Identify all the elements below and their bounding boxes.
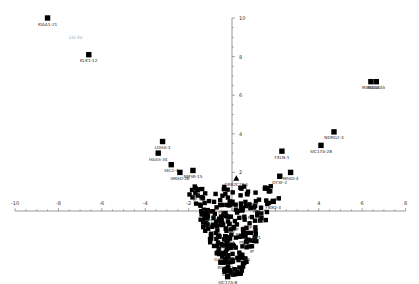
svg-text:F1: F1 xyxy=(244,256,249,261)
x-tick-label: -8 xyxy=(56,200,61,206)
svg-text:F1: F1 xyxy=(242,225,247,230)
svg-text:IP1: IP1 xyxy=(219,245,226,250)
svg-text:PT: PT xyxy=(248,215,254,220)
data-point: HAAS-34 xyxy=(149,150,168,161)
point-label: SEL1-4 xyxy=(164,168,179,173)
point-label: KLK1-12 xyxy=(80,58,98,63)
annotation: Lin Fo xyxy=(69,35,82,40)
svg-text:IP: IP xyxy=(250,249,254,254)
point-label: DYSF-2 xyxy=(272,180,287,185)
point-label: NMSR-15 xyxy=(183,174,202,179)
svg-text:P1: P1 xyxy=(251,202,257,207)
svg-text:P2: P2 xyxy=(229,230,235,235)
data-point: NDRG2-3 xyxy=(324,129,344,140)
x-tick-label: -4 xyxy=(143,200,148,206)
svg-text:IP1: IP1 xyxy=(257,219,264,224)
data-point: GRB2C2P-1 xyxy=(224,175,248,187)
x-tick-label: 6 xyxy=(361,200,364,206)
x-tick-label: -2 xyxy=(186,200,191,206)
data-point: LDHA-3 xyxy=(155,139,171,150)
point-label: LDHA-3 xyxy=(155,145,171,150)
svg-text:F1: F1 xyxy=(238,258,243,263)
y-tick-label: 10 xyxy=(239,15,245,21)
svg-text:IP1: IP1 xyxy=(249,225,256,230)
svg-text:P1: P1 xyxy=(238,251,244,256)
y-tick-label: 4 xyxy=(239,131,242,137)
point-label: MAGEA5 xyxy=(367,85,385,90)
svg-text:PT: PT xyxy=(205,224,211,229)
svg-text:IP: IP xyxy=(216,236,220,241)
volcano-plot: -10-8-6-4-2468246810 IP1P1P2PTIPF1IP1P1P… xyxy=(0,0,419,284)
svg-text:F1: F1 xyxy=(224,212,229,217)
svg-text:F1: F1 xyxy=(230,240,235,245)
svg-text:PT: PT xyxy=(202,208,208,213)
svg-text:P2: P2 xyxy=(223,237,229,242)
svg-text:PT: PT xyxy=(253,209,259,214)
point-label: GRB2C2P-1 xyxy=(224,182,248,187)
point-label: PNLIP xyxy=(239,240,251,245)
svg-text:IP: IP xyxy=(235,227,239,232)
point-label: NDRG2-3 xyxy=(324,135,344,140)
y-tick-label: 8 xyxy=(239,54,242,60)
point-label: HAAS-34 xyxy=(149,157,168,162)
y-tick-label: 2 xyxy=(239,169,242,175)
data-point: KLK1-12 xyxy=(80,52,98,63)
data-point: FXLN-1 xyxy=(274,148,289,159)
data-point: SIC17A-28 xyxy=(310,143,332,154)
point-label: SEB-2 xyxy=(191,193,204,198)
x-tick-label: 4 xyxy=(317,200,320,206)
data-point: SEL1-4 xyxy=(164,162,179,173)
axes: -10-8-6-4-2468246810 xyxy=(11,15,407,211)
point-label: SIC17A-28 xyxy=(310,149,332,154)
svg-text:IP: IP xyxy=(211,214,215,219)
data-point: NMSR-15 xyxy=(183,168,202,179)
x-tick-label: -10 xyxy=(11,200,19,206)
x-tick-label: 8 xyxy=(404,200,407,206)
point-label: FXLN-1 xyxy=(274,155,289,160)
svg-text:IP1: IP1 xyxy=(254,235,261,240)
svg-text:IP1: IP1 xyxy=(202,219,209,224)
x-tick-label: -6 xyxy=(99,200,104,206)
point-label: KIAA1-21 xyxy=(38,22,58,27)
svg-text:P2: P2 xyxy=(236,232,242,237)
data-point: KIAA1-21 xyxy=(38,15,58,26)
y-tick-label: 6 xyxy=(239,92,242,98)
point-label: SIC17A-8 xyxy=(218,280,237,284)
point-label: FBXO-3 xyxy=(265,205,281,210)
